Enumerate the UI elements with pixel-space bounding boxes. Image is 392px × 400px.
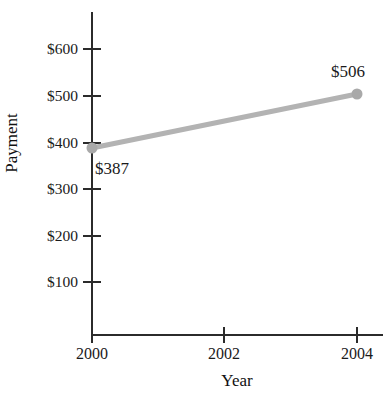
x-axis-tick-2002 bbox=[223, 327, 225, 343]
y-axis-tick-200 bbox=[83, 235, 101, 237]
y-axis-tick-500 bbox=[83, 95, 101, 97]
data-point-2004 bbox=[352, 89, 363, 100]
y-axis-tick-600 bbox=[83, 48, 101, 50]
plot-area: $600 $500 $400 $300 $200 $100 2000 2002 … bbox=[0, 0, 392, 400]
y-axis-line bbox=[91, 12, 93, 336]
data-label-2000: $387 bbox=[95, 160, 129, 178]
x-axis-tick-2004 bbox=[356, 327, 358, 343]
y-axis-tick-100 bbox=[83, 281, 101, 283]
y-axis-tick-400 bbox=[83, 142, 101, 144]
data-series-layer bbox=[0, 0, 392, 400]
x-axis-tick-label-2000: 2000 bbox=[52, 345, 132, 363]
x-axis-tick-label-2002: 2002 bbox=[184, 345, 264, 363]
y-axis-title: Payment bbox=[2, 93, 22, 193]
chart-figure: $600 $500 $400 $300 $200 $100 2000 2002 … bbox=[0, 0, 392, 400]
data-label-2004: $506 bbox=[331, 63, 365, 81]
x-axis-tick-label-2004: 2004 bbox=[317, 345, 392, 363]
y-axis-tick-label-100: $100 bbox=[6, 274, 78, 290]
y-axis-tick-label-200: $200 bbox=[6, 228, 78, 244]
y-axis-tick-label-600: $600 bbox=[6, 41, 78, 57]
series-line-payment bbox=[92, 94, 357, 148]
x-axis-tick-2000 bbox=[91, 327, 93, 343]
y-axis-tick-300 bbox=[83, 188, 101, 190]
x-axis-line bbox=[91, 334, 383, 336]
x-axis-title: Year bbox=[91, 371, 383, 391]
